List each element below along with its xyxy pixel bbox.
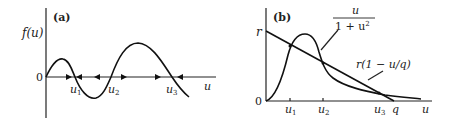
x-axis-label: u: [422, 103, 429, 116]
arrow-right-icon: [155, 74, 161, 80]
line-label: r(1 − u/q): [356, 58, 411, 71]
panel-label-a: (a): [53, 11, 71, 24]
arrow-right-icon: [66, 74, 72, 80]
x-tick-u2: u2: [318, 103, 330, 117]
root-label-u1: u1: [70, 83, 82, 97]
arrow-left-icon: [94, 74, 100, 80]
x-tick-u1: u1: [285, 103, 297, 117]
fraction-numerator: u: [352, 4, 359, 17]
root-label-u2: u2: [108, 83, 120, 97]
y-axis-label: f(u): [21, 26, 44, 40]
panel-a: (a) f(u) 0 u u1 u2 u3: [21, 8, 216, 118]
arrow-left-icon: [76, 74, 82, 80]
arrow-left-icon: [177, 74, 183, 80]
figure: (a) f(u) 0 u u1 u2 u3 (b) r 0 u u 1 + u2: [0, 0, 453, 122]
root-label-u3: u3: [166, 83, 178, 97]
x-tick-u3: u3: [374, 103, 386, 117]
origin-label: 0: [255, 95, 262, 108]
fraction-denominator: 1 + u2: [335, 20, 370, 33]
leader-line: [368, 71, 383, 80]
x-axis-label: u: [204, 80, 211, 93]
y-tick-r: r: [256, 25, 263, 39]
leader-curve: [321, 30, 338, 50]
origin-label: 0: [36, 71, 43, 84]
panel-label-b: (b): [273, 11, 291, 24]
arrow-right-icon: [121, 74, 127, 80]
x-tick-q: q: [392, 103, 399, 116]
panel-b: (b) r 0 u u 1 + u2 r(1 − u/q) u1 u2 u3 q: [255, 4, 432, 117]
